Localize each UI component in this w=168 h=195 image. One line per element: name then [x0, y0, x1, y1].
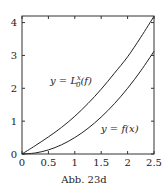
upper-curve-label: y = Lx0(f)	[49, 74, 92, 89]
lower-curve-label: y = f(x)	[100, 123, 139, 134]
x-tick-label: 1	[72, 157, 78, 168]
y-tick-label: 2	[11, 83, 17, 94]
x-tick-label: 1.5	[93, 157, 109, 168]
lower-curve-f	[22, 51, 154, 154]
y-tick-label: 0	[11, 149, 17, 160]
x-tick-label: 0.5	[40, 157, 56, 168]
x-tick-label: 2.5	[146, 157, 162, 168]
y-tick-label: 4	[11, 17, 17, 28]
y-tick-label: 3	[11, 50, 17, 61]
y-tick-label: 1	[11, 116, 17, 127]
chart-canvas: 00.511.522.501234 y = Lx0(f) y = f(x)	[0, 0, 168, 195]
figure-caption: Abb. 23d	[0, 174, 168, 185]
x-tick-label: 2	[124, 157, 130, 168]
x-tick-label: 0	[19, 157, 25, 168]
